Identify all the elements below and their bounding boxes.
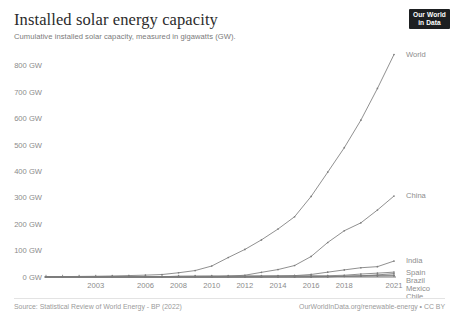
data-point	[227, 257, 229, 259]
data-point	[78, 276, 80, 278]
y-tick-label: 800 GW	[14, 61, 42, 70]
data-point	[62, 276, 64, 278]
data-point	[377, 266, 379, 268]
data-point	[360, 275, 362, 277]
data-point	[244, 274, 246, 276]
data-point	[294, 275, 296, 277]
series-world[interactable]	[45, 54, 395, 278]
logo-line-2: in Data	[413, 19, 446, 27]
data-point	[393, 54, 395, 56]
data-point	[327, 242, 329, 244]
series-label-world[interactable]: World	[406, 50, 426, 59]
data-point	[178, 276, 180, 278]
our-world-in-data-logo[interactable]: Our World in Data	[409, 9, 450, 29]
data-point	[360, 119, 362, 121]
data-point	[277, 275, 279, 277]
data-point	[327, 275, 329, 277]
data-point	[343, 147, 345, 149]
data-point	[111, 275, 113, 277]
data-point	[393, 195, 395, 197]
y-tick-label: 200 GW	[14, 220, 42, 229]
data-point	[377, 209, 379, 211]
data-point	[161, 274, 163, 276]
data-point	[194, 270, 196, 272]
data-point	[327, 171, 329, 173]
y-tick-label: 600 GW	[14, 114, 42, 123]
data-point	[343, 230, 345, 232]
data-point	[161, 276, 163, 278]
logo-line-1: Our World	[413, 11, 446, 19]
data-point	[261, 239, 263, 241]
y-tick-label: 700 GW	[14, 88, 42, 97]
series-line	[46, 55, 394, 277]
data-point	[294, 216, 296, 218]
data-point	[310, 256, 312, 258]
data-point	[393, 274, 395, 276]
x-tick-label: 2003	[76, 281, 116, 290]
data-point	[244, 276, 246, 278]
data-point	[294, 265, 296, 267]
data-point	[261, 271, 263, 273]
data-point	[244, 249, 246, 251]
data-point	[145, 274, 147, 276]
data-point	[377, 88, 379, 90]
data-point	[227, 275, 229, 277]
data-point	[393, 271, 395, 273]
data-point	[45, 276, 47, 278]
data-point	[310, 196, 312, 198]
plot-area: 0 GW100 GW200 GW300 GW400 GW500 GW600 GW…	[0, 40, 459, 290]
footer-divider	[14, 298, 445, 299]
data-point	[360, 273, 362, 275]
data-point	[277, 269, 279, 271]
series-label-india[interactable]: India	[406, 256, 422, 265]
series-label-china[interactable]: China	[406, 191, 426, 200]
data-point	[145, 276, 147, 278]
page-title: Installed solar energy capacity	[14, 10, 218, 30]
data-point	[178, 272, 180, 274]
data-point	[360, 222, 362, 224]
chart-svg	[0, 40, 459, 290]
series-label-chile[interactable]: Chile	[406, 292, 423, 301]
data-point	[343, 274, 345, 276]
data-point	[377, 274, 379, 276]
data-point	[128, 275, 130, 277]
series-china[interactable]	[45, 195, 395, 278]
data-point	[277, 228, 279, 230]
credit-note[interactable]: OurWorldInData.org/renewable-energy • CC…	[299, 303, 445, 310]
source-note: Source: Statistical Review of World Ener…	[14, 303, 182, 310]
y-tick-label: 100 GW	[14, 246, 42, 255]
data-point	[377, 272, 379, 274]
data-point	[343, 269, 345, 271]
data-point	[310, 274, 312, 276]
data-point	[211, 276, 213, 278]
series-line	[46, 261, 394, 277]
data-point	[261, 276, 263, 278]
data-point	[194, 276, 196, 278]
data-point	[393, 273, 395, 275]
x-tick-label: 2018	[324, 281, 364, 290]
series-line	[46, 196, 394, 277]
data-point	[211, 265, 213, 267]
y-tick-label: 500 GW	[14, 141, 42, 150]
y-tick-label: 300 GW	[14, 193, 42, 202]
owid-chart: Installed solar energy capacity Cumulati…	[0, 0, 459, 324]
data-point	[393, 260, 395, 262]
data-point	[360, 267, 362, 269]
data-point	[327, 271, 329, 273]
y-tick-label: 0 GW	[23, 273, 42, 282]
data-point	[95, 275, 97, 277]
y-tick-label: 400 GW	[14, 167, 42, 176]
